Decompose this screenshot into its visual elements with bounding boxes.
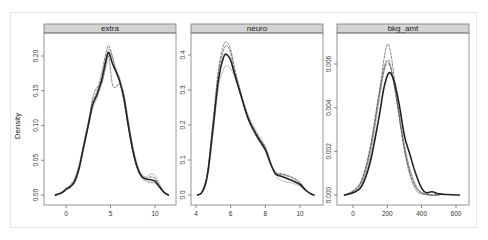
density-curves-extra [55, 46, 168, 195]
y-tick-label: 0.1 [179, 155, 186, 164]
x-tick-label: 0 [351, 210, 355, 217]
strip-label-bkg-amt: bkg_amt [388, 24, 419, 33]
density-line-replicate-3 [55, 49, 168, 195]
x-tick-label: 0 [64, 210, 68, 217]
plot-frame-bkg-amt [337, 33, 469, 205]
axes-neuro: 468100.00.10.20.30.4 [179, 50, 304, 217]
x-tick-label: 8 [264, 210, 268, 217]
x-tick-label: 10 [151, 210, 159, 217]
y-tick-label: 0.2 [179, 120, 186, 129]
panel-neuro: neuro 468100.00.10.20.30.4 [179, 24, 323, 217]
panel-extra: extra 05100.000.050.100.150.20 [32, 24, 176, 217]
y-tick-label: 0.00 [32, 188, 39, 201]
y-tick-label: 0.20 [32, 49, 39, 62]
x-tick-label: 400 [416, 210, 427, 217]
plot-frame-extra [44, 33, 176, 205]
density-line-replicate-2 [198, 66, 314, 196]
strip-label-neuro: neuro [247, 24, 268, 33]
density-line-replicate-3 [198, 42, 314, 195]
x-tick-label: 5 [109, 210, 113, 217]
x-tick-label: 10 [296, 210, 304, 217]
density-curves-neuro [198, 42, 314, 195]
y-tick-label: 0.15 [32, 84, 39, 97]
density-line-observed [198, 54, 314, 195]
y-tick-label: 0.4 [179, 50, 186, 59]
y-tick-label: 0.002 [325, 143, 332, 160]
panel-bkg-amt: bkg_amt 02004006000.0000.0020.0040.006 [325, 24, 469, 217]
axes-extra: 05100.000.050.100.150.20 [32, 49, 159, 217]
density-line-replicate-1 [198, 46, 314, 195]
density-line-replicate-1 [344, 44, 438, 195]
y-tick-label: 0.10 [32, 119, 39, 132]
density-curves-bkg-amt [344, 44, 459, 195]
y-tick-label: 0.05 [32, 154, 39, 167]
x-tick-label: 200 [382, 210, 393, 217]
x-tick-label: 6 [229, 210, 233, 217]
y-tick-label: 0.0 [179, 190, 186, 199]
x-tick-label: 600 [451, 210, 462, 217]
y-tick-label: 0.000 [325, 186, 332, 203]
density-line-observed [55, 52, 168, 195]
density-plots: Density extra 05100.000.050.100.150.20 n… [0, 0, 488, 240]
density-line-replicate-2 [344, 60, 438, 196]
y-tick-label: 0.004 [325, 99, 332, 116]
density-line-replicate-4 [344, 62, 438, 195]
density-line-replicate-3 [344, 64, 438, 195]
density-line-replicate-1 [55, 46, 168, 195]
strip-label-extra: extra [101, 24, 119, 33]
y-tick-label: 0.3 [179, 85, 186, 94]
y-axis-label: Density [13, 113, 22, 140]
plot-frame-neuro [191, 33, 323, 205]
y-tick-label: 0.006 [325, 55, 332, 72]
x-tick-label: 4 [194, 210, 198, 217]
